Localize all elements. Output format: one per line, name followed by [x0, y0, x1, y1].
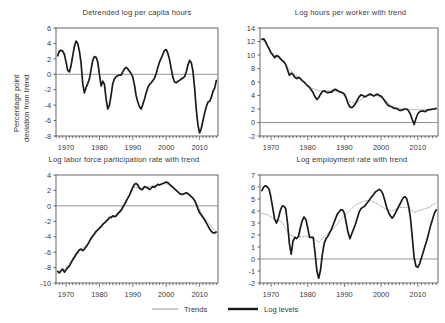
y-tick-label: -2 [248, 279, 255, 288]
y-tick-label: 1 [251, 243, 255, 252]
y-tick-label: 0 [47, 202, 51, 211]
panel-log-employment-rate: Log employment rate with trend 76543210-… [222, 155, 445, 305]
y-tick-label: 2 [47, 55, 51, 64]
plot-area-top-left: 6420-2-4-6-819701980199020002010 [0, 8, 222, 158]
plot-frame [260, 28, 438, 136]
y-tick-label: 10 [247, 51, 255, 60]
series-log-levels [58, 41, 217, 133]
y-tick-label: 2 [251, 105, 255, 114]
x-tick-label: 2000 [158, 290, 174, 299]
series-log-levels [262, 39, 436, 125]
series-log-levels [262, 186, 436, 278]
y-tick-label: 0 [251, 118, 255, 127]
x-tick-label: 2010 [410, 143, 426, 152]
x-tick-label: 1990 [336, 290, 352, 299]
x-tick-label: 1980 [91, 290, 107, 299]
y-tick-label: 14 [247, 24, 255, 33]
plot-area-top-right: 14121086420-219701980199020002010 [222, 8, 445, 158]
panel-log-labor-force-participation: Log labor force participation rate with … [0, 155, 222, 305]
y-tick-label: 2 [47, 186, 51, 195]
y-axis-label-top-left-line2: deviation from trend [22, 75, 31, 142]
y-tick-label: 4 [251, 207, 255, 216]
x-tick-label: 1980 [299, 290, 315, 299]
x-tick-label: 2010 [191, 143, 207, 152]
x-tick-label: 1980 [91, 143, 107, 152]
legend-label-trends: Trends [184, 305, 208, 314]
y-tick-label: 0 [251, 255, 255, 264]
figure-panel-grid: Detrended log per capita hours Percentag… [0, 0, 445, 323]
x-tick-label: 1970 [263, 143, 279, 152]
panel-title-bottom-left: Log labor force participation rate with … [26, 155, 222, 164]
y-tick-label: 4 [47, 39, 51, 48]
plot-area-bottom-left: 420-2-4-6-8-1019701980199020002010 [0, 155, 222, 305]
y-axis-label-top-left-line1: Percentage point [12, 75, 21, 132]
y-tick-label: -4 [44, 101, 51, 110]
x-tick-label: 1990 [125, 143, 141, 152]
x-tick-label: 1970 [58, 290, 74, 299]
y-tick-label: 4 [251, 91, 255, 100]
panel-detrended-log-per-capita-hours: Detrended log per capita hours Percentag… [0, 8, 222, 158]
y-tick-label: -8 [44, 263, 51, 272]
x-tick-label: 2010 [410, 290, 426, 299]
y-tick-label: -6 [44, 248, 51, 257]
y-tick-label: 12 [247, 37, 255, 46]
x-tick-label: 2000 [373, 143, 389, 152]
panel-title-top-left: Detrended log per capita hours [52, 8, 222, 17]
y-tick-label: 0 [47, 70, 51, 79]
y-tick-label: -10 [40, 279, 51, 288]
y-tick-label: -1 [248, 267, 255, 276]
x-tick-label: 2000 [373, 290, 389, 299]
plot-frame [56, 175, 218, 283]
y-tick-label: -2 [44, 217, 51, 226]
y-tick-label: 4 [47, 171, 51, 180]
y-tick-label: 3 [251, 219, 255, 228]
y-tick-label: -2 [44, 85, 51, 94]
x-tick-label: 1970 [263, 290, 279, 299]
y-tick-label: 6 [251, 183, 255, 192]
y-tick-label: 5 [251, 195, 255, 204]
y-tick-label: -4 [44, 232, 51, 241]
y-tick-label: 6 [251, 78, 255, 87]
series-log-levels [58, 182, 217, 273]
plot-area-bottom-right: 76543210-1-219701980199020002010 [222, 155, 445, 305]
panel-log-hours-per-worker: Log hours per worker with trend 14121086… [222, 8, 445, 158]
series-trends [262, 38, 436, 110]
y-tick-label: -6 [44, 116, 51, 125]
y-tick-label: -8 [44, 132, 51, 141]
y-tick-label: 8 [251, 64, 255, 73]
legend-label-log-levels: Log levels [264, 305, 298, 314]
y-tick-label: -2 [248, 132, 255, 141]
x-tick-label: 1990 [125, 290, 141, 299]
panel-title-bottom-right: Log employment rate with trend [262, 155, 442, 164]
y-tick-label: 6 [47, 24, 51, 33]
x-tick-label: 2000 [158, 143, 174, 152]
figure-legend: Trends Log levels [150, 300, 410, 318]
x-tick-label: 2010 [191, 290, 207, 299]
x-tick-label: 1970 [58, 143, 74, 152]
panel-title-top-right: Log hours per worker with trend [258, 8, 443, 17]
y-tick-label: 7 [251, 171, 255, 180]
y-tick-label: 2 [251, 231, 255, 240]
x-tick-label: 1990 [336, 143, 352, 152]
x-tick-label: 1980 [299, 143, 315, 152]
